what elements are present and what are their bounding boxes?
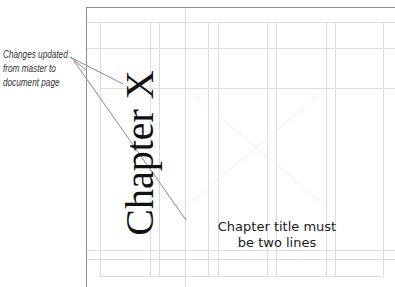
annotation-title-rule: Chapter title must be two lines: [188, 219, 366, 251]
annotation-line: from master to: [3, 62, 77, 76]
document-page: Chapter X Changes updated from master to…: [0, 0, 395, 287]
graphic-frame-placeholder: [186, 89, 326, 206]
annotation-master-changes: Changes updated from master to document …: [3, 48, 77, 90]
chapter-title: Chapter X: [120, 70, 160, 236]
annotation-line: Chapter title must: [188, 219, 366, 235]
annotation-line: Changes updated: [3, 48, 77, 62]
annotation-line: be two lines: [188, 235, 366, 251]
annotation-line: document page: [3, 76, 77, 90]
